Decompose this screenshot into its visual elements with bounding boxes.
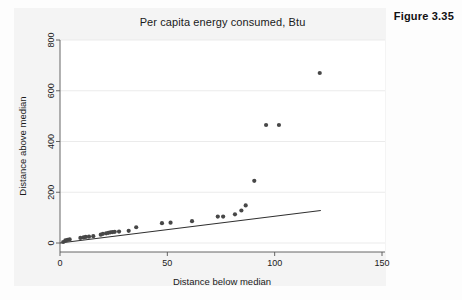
data-point (264, 123, 268, 127)
data-point (239, 208, 243, 212)
data-point (318, 71, 322, 75)
data-point (160, 221, 164, 225)
data-point (190, 219, 194, 223)
data-point (252, 179, 256, 183)
data-point (113, 230, 117, 234)
figure-page: Per capita energy consumed, Btu Figure 3… (0, 0, 462, 300)
data-point (117, 229, 121, 233)
y-axis-title: Distance above median (17, 96, 28, 195)
data-point (277, 123, 281, 127)
data-point (216, 215, 220, 219)
x-tick-label-100: 100 (267, 258, 282, 268)
y-tick-label-600: 600 (46, 83, 56, 98)
x-tick-label-150: 150 (374, 258, 389, 268)
y-tick-label-800: 800 (46, 32, 56, 47)
data-point (91, 234, 95, 238)
data-point (127, 229, 131, 233)
data-point (134, 225, 138, 229)
data-point (233, 212, 237, 216)
x-tick-label-50: 50 (162, 258, 172, 268)
data-point (221, 215, 225, 219)
x-axis-title: Distance below median (173, 276, 271, 287)
y-tick-label-400: 400 (46, 134, 56, 149)
data-point (87, 235, 91, 239)
x-tick-label-0: 0 (57, 258, 62, 268)
data-point (244, 203, 248, 207)
x-axis-ticks: 050100150 (57, 252, 389, 268)
y-axis-ticks: 0200400600800 (46, 32, 60, 245)
reference-fit-line (60, 211, 321, 243)
data-point (168, 221, 172, 225)
scatter-points (61, 71, 322, 244)
data-point (68, 237, 72, 241)
chart-canvas: 0200400600800 050100150 Distance below m… (0, 0, 462, 300)
reference-line-segment (60, 211, 321, 243)
gridlines-horizontal (60, 40, 385, 243)
y-tick-label-200: 200 (46, 185, 56, 200)
y-tick-label-0: 0 (46, 240, 56, 245)
